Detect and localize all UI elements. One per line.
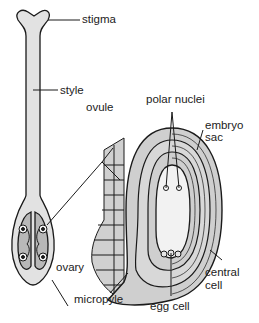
label-central-cell-1: central bbox=[205, 266, 240, 278]
label-embryo-sac-2: sac bbox=[205, 131, 223, 143]
label-embryo-sac-1: embryo bbox=[205, 119, 243, 131]
label-central-cell-2: cell bbox=[205, 279, 222, 291]
embryo-sac bbox=[156, 165, 190, 258]
label-polar-nuclei: polar nuclei bbox=[146, 93, 205, 105]
label-stigma: stigma bbox=[82, 13, 116, 25]
label-ovary: ovary bbox=[56, 261, 84, 273]
egg-apparatus-cell bbox=[175, 251, 181, 257]
pistil bbox=[12, 10, 54, 285]
label-ovule: ovule bbox=[86, 101, 114, 113]
egg-apparatus-cell bbox=[161, 251, 167, 257]
ovule-tissue bbox=[92, 138, 124, 300]
label-style: style bbox=[60, 84, 84, 96]
label-egg-cell: egg cell bbox=[150, 300, 190, 312]
label-micropyle: micropyle bbox=[74, 293, 123, 305]
